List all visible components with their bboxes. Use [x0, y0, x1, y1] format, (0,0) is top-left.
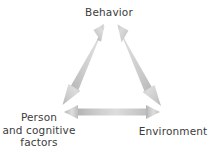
behavior-environment-arrow — [118, 25, 162, 107]
behavior-label-line-1: Behavior — [60, 6, 158, 19]
reciprocal-determinism-diagram: Behavior Person and cognitive factors En… — [0, 0, 216, 154]
node-label-behavior: Behavior — [60, 6, 158, 19]
person-label-line-2: and cognitive — [0, 124, 78, 137]
node-label-environment: Environment — [136, 125, 210, 138]
person-label-line-1: Person — [0, 111, 78, 124]
environment-label-line-1: Environment — [136, 125, 210, 138]
person-environment-arrow — [64, 105, 160, 119]
person-behavior-arrow — [63, 24, 105, 105]
node-label-person-and-cognitive-factors: Person and cognitive factors — [0, 111, 78, 149]
person-label-line-3: factors — [0, 136, 78, 149]
